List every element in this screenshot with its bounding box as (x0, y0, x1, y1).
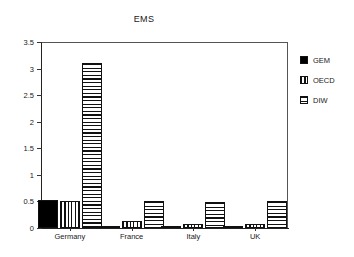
y-axis-tick-label: 1.5 (0, 144, 34, 153)
y-axis-tick (37, 148, 42, 149)
x-axis-tick (70, 228, 71, 231)
y-axis-tick (37, 69, 42, 70)
legend-label: DIW (313, 96, 328, 105)
y-axis-tick (37, 122, 42, 123)
bar-uk-oecd (245, 224, 265, 228)
legend-label: GEM (313, 56, 330, 65)
y-axis-tick-label: 3.5 (0, 38, 34, 47)
bar-germany-diw (82, 63, 102, 228)
bar-uk-gem (223, 226, 243, 228)
x-axis-tick (255, 228, 256, 231)
legend-swatch-oecd-icon (300, 76, 308, 84)
legend-item-oecd: OECD (300, 70, 335, 90)
chart-legend: GEMOECDDIW (300, 50, 335, 110)
legend-label: OECD (313, 76, 335, 85)
bar-italy-gem (161, 226, 181, 228)
x-axis-category-label: France (120, 232, 143, 241)
legend-swatch-gem-icon (300, 56, 308, 64)
legend-swatch-diw-icon (300, 96, 308, 104)
bar-france-oecd (122, 221, 142, 228)
chart-figure: EMS 00.511.522.533.5 GermanyFranceItalyU… (0, 0, 354, 257)
x-axis-category-label: UK (250, 232, 260, 241)
x-axis-category-label: Germany (54, 232, 85, 241)
y-axis-tick (37, 228, 42, 229)
bar-uk-diw (267, 201, 287, 228)
bar-france-diw (144, 201, 164, 228)
y-axis-tick (37, 95, 42, 96)
bar-germany-gem (38, 200, 58, 228)
x-axis-category-label: Italy (186, 232, 200, 241)
y-axis-tick-label: 2 (0, 117, 34, 126)
x-axis-tick (193, 228, 194, 231)
bar-italy-oecd (183, 224, 203, 228)
y-axis-tick-label: 0.5 (0, 197, 34, 206)
y-axis-tick-label: 1 (0, 170, 34, 179)
y-axis-tick-label: 0 (0, 224, 34, 233)
y-axis-tick-label: 3 (0, 64, 34, 73)
bar-italy-diw (205, 202, 225, 228)
chart-title: EMS (0, 14, 288, 24)
bar-germany-oecd (60, 201, 80, 228)
legend-item-gem: GEM (300, 50, 335, 70)
legend-item-diw: DIW (300, 90, 335, 110)
bar-france-gem (100, 226, 120, 228)
y-axis-tick (37, 175, 42, 176)
y-axis-tick-label: 2.5 (0, 91, 34, 100)
x-axis-tick (132, 228, 133, 231)
y-axis-tick (37, 42, 42, 43)
